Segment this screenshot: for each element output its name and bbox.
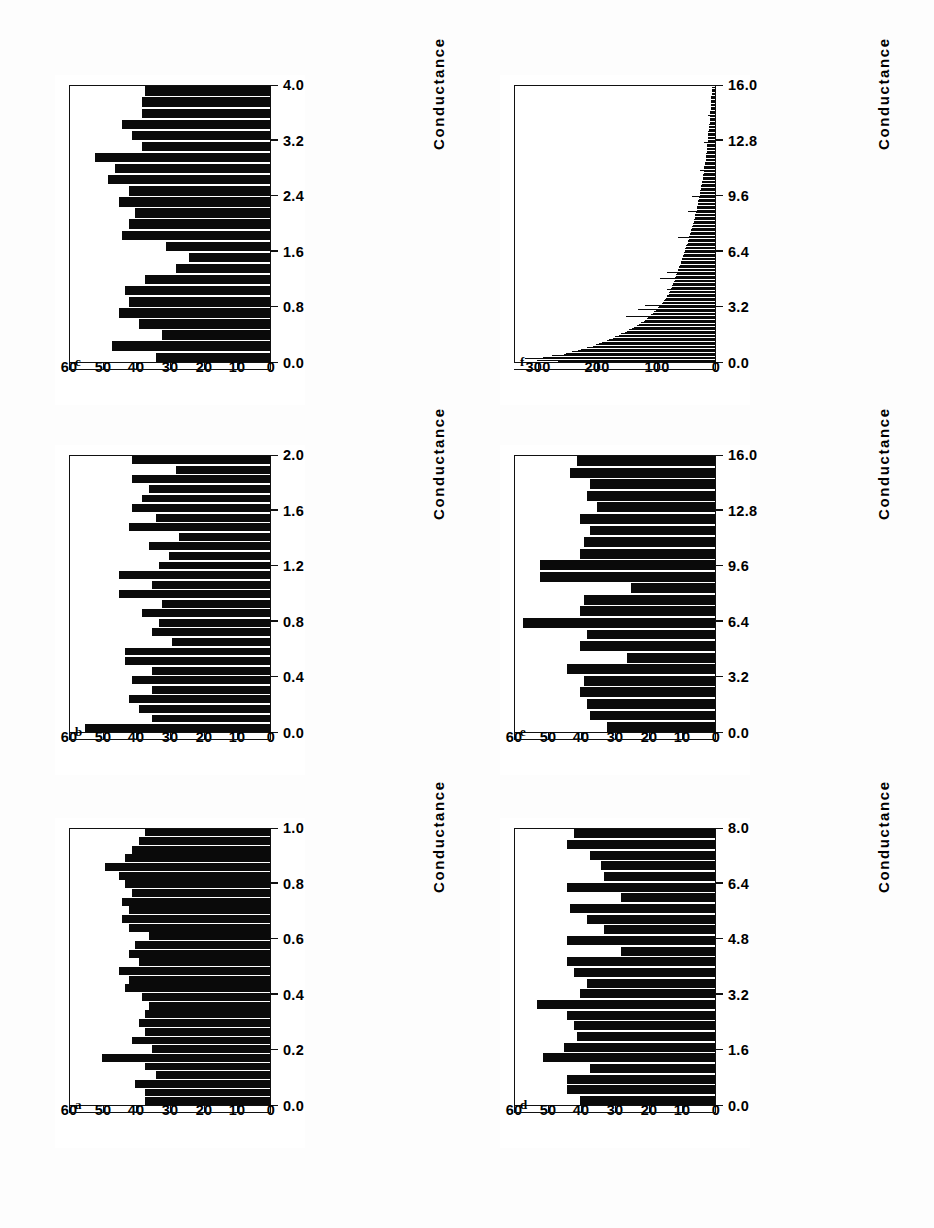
bar [711,104,715,105]
bar [149,485,270,493]
bar [627,331,715,332]
bar [152,667,270,675]
bar [135,208,270,217]
bar [707,146,715,147]
y-tick-label: 50 [539,1102,556,1118]
bar [641,322,715,323]
bar [708,138,715,139]
bar [142,993,270,1001]
bar [658,307,715,308]
bar [570,468,715,478]
bar [709,124,715,125]
bar [712,94,715,95]
bar [712,89,715,90]
x-tick-label: 0.4 [283,669,304,685]
bar [704,173,715,174]
bar [665,299,715,300]
bar [684,254,715,255]
bar [584,676,715,686]
bar [578,350,715,351]
bar [711,101,715,102]
x-tick-label: 0.6 [283,931,304,947]
bar [695,217,715,218]
bar [102,1054,270,1062]
bar-series-b [70,456,270,732]
bar [590,526,715,536]
bar [145,86,270,95]
x-tick-label: 1.0 [283,820,304,836]
bar [706,156,715,157]
bar [152,581,270,589]
bar [172,638,270,646]
bar [709,127,715,128]
bar [706,153,715,154]
panel-canvas: c0.00.81.62.43.24.00102030405060 [55,75,305,405]
bar [685,248,715,249]
bar [567,883,715,892]
bar [577,1032,715,1041]
bar [678,270,715,271]
bar [537,360,715,361]
bar [653,313,715,314]
figure-root: a0.00.20.40.60.81.00102030405060b0.00.40… [0,0,934,1228]
x-tick [716,938,723,939]
bar [139,958,270,966]
bar [601,861,715,870]
y-tick-label: 50 [94,359,111,375]
plot-area-f [514,85,716,363]
bar [712,90,715,91]
y-tick-label: 0 [712,1102,720,1118]
bar [132,131,270,140]
bar [708,133,715,134]
y-tick-label: 60 [61,729,78,745]
bar [570,904,715,913]
y-axis-line [69,369,271,370]
bar [671,288,715,289]
bar [638,309,715,310]
bar [667,296,715,297]
bar [660,278,715,279]
bar [708,135,715,136]
bar [129,906,270,914]
x-tick [271,139,278,140]
y-tick-label: 50 [94,1102,111,1118]
bar [676,276,715,277]
bar [694,219,715,220]
bar-series-d [515,829,715,1105]
bar [129,186,270,195]
x-tick-label: 6.4 [728,614,749,630]
bar [149,1002,270,1010]
bar [537,1000,715,1009]
x-tick [716,1049,723,1050]
x-tick-label: 6.4 [728,876,749,892]
bar [129,950,270,958]
y-tick-label: 20 [195,359,212,375]
x-tick-label: 1.2 [283,558,304,574]
bar [567,957,715,966]
bar [709,130,715,131]
x-tick [716,828,723,829]
x-tick-label: 3.2 [728,987,749,1003]
bar [132,504,270,512]
bar [703,177,715,178]
x-axis-title-a: Conductance [430,780,447,893]
bar [701,188,715,189]
bar [697,206,715,207]
x-tick-label: 2.0 [283,447,304,463]
bar [152,715,270,723]
bar [125,984,270,992]
bar [710,119,715,120]
bar [647,318,715,319]
x-tick [716,993,723,994]
x-tick [271,509,278,510]
bar [651,314,715,315]
y-tick-label: 60 [506,729,523,745]
bar [119,197,271,206]
bar [567,936,715,945]
bar [672,285,715,286]
bar [645,320,715,321]
bar [590,479,715,489]
bar [567,1075,715,1084]
x-tick-label: 0.8 [283,614,304,630]
bar [125,286,270,295]
